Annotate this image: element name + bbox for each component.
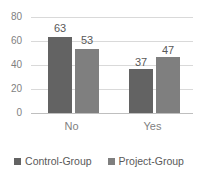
y-axis-tick-0: 0 bbox=[0, 108, 22, 118]
bar-project-yes bbox=[156, 57, 180, 113]
chart-legend: Control-Group Project-Group bbox=[0, 156, 198, 167]
legend-label-control-group: Control-Group bbox=[25, 156, 92, 167]
bar-chart: 80 60 40 20 0 63 53 37 47 No Yes Control… bbox=[0, 0, 198, 179]
legend-swatch-icon-control-group bbox=[14, 158, 21, 165]
legend-swatch-icon-project-group bbox=[108, 158, 115, 165]
bar-control-yes bbox=[129, 69, 153, 113]
x-axis-category-yes: Yes bbox=[112, 120, 193, 132]
gridline-80 bbox=[31, 17, 193, 18]
y-axis-tick-20: 20 bbox=[0, 84, 22, 94]
x-axis-category-no: No bbox=[31, 120, 112, 132]
legend-item-control-group: Control-Group bbox=[14, 156, 92, 167]
y-axis-tick-40: 40 bbox=[0, 60, 22, 70]
bar-control-no bbox=[48, 37, 72, 113]
bar-project-no bbox=[75, 49, 99, 113]
bar-value-label-project-yes: 47 bbox=[156, 45, 180, 56]
y-axis-tick-60: 60 bbox=[0, 36, 22, 46]
legend-item-project-group: Project-Group bbox=[108, 156, 184, 167]
bar-value-label-control-no: 63 bbox=[48, 23, 72, 34]
bar-value-label-control-yes: 37 bbox=[129, 57, 153, 68]
x-axis-line bbox=[31, 113, 193, 114]
y-axis-tick-80: 80 bbox=[0, 12, 22, 22]
legend-label-project-group: Project-Group bbox=[119, 156, 184, 167]
bar-value-label-project-no: 53 bbox=[75, 35, 99, 46]
plot-area: 63 53 37 47 bbox=[31, 17, 193, 113]
